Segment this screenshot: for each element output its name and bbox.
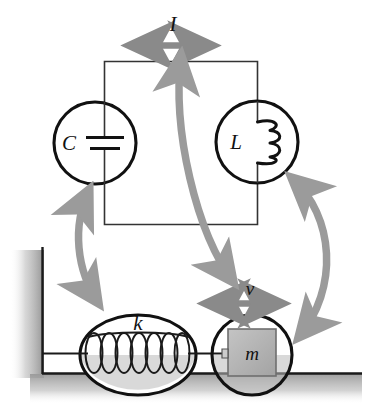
capacitor-label: C	[62, 131, 77, 155]
mass-connector-pin	[222, 349, 228, 358]
mass-label: m	[245, 343, 259, 364]
physics-analogy-diagram: C L k	[0, 0, 369, 416]
spring-label: k	[133, 311, 143, 335]
capacitor-spring-correspondence-arrow	[79, 190, 99, 304]
velocity-label: v	[246, 278, 255, 299]
inductor-element	[216, 101, 298, 183]
wall-shadow	[10, 250, 44, 378]
inductor-mass-correspondence-arrow	[292, 178, 327, 338]
current-label: I	[169, 12, 178, 36]
diagram-canvas: C L k	[0, 0, 369, 416]
ground-shadow	[30, 374, 362, 404]
inductor-label: L	[229, 130, 242, 154]
